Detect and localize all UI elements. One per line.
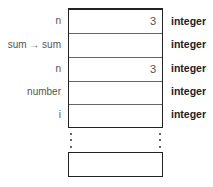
row-label: n [0,63,61,74]
cell-value: 3 [150,63,156,75]
row-type: integer [171,15,206,27]
stack-cell-number [69,81,162,105]
dot [70,146,72,148]
row-type: integer [171,38,206,50]
dot [159,146,161,148]
memory-stack: 3 3 [68,8,163,128]
row-type: integer [171,108,206,120]
cell-value: 3 [150,15,156,27]
stack-cell-sum [69,34,162,58]
row-label: n [0,15,61,26]
row-label: i [0,109,61,120]
row-label: sum → sum [0,39,61,50]
dot [70,139,72,141]
row-type: integer [171,62,206,74]
stack-cell-n: 3 [69,10,162,34]
row-label: number [0,86,61,97]
row-type: integer [171,85,206,97]
dot [159,139,161,141]
stack-cell-i [69,105,162,129]
dot [70,133,72,135]
dot [159,133,161,135]
stack-bottom-cell [68,152,163,177]
stack-cell-n: 3 [69,58,162,82]
